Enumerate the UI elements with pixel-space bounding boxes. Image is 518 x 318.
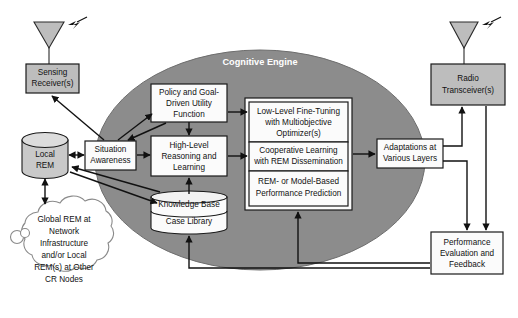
performance-prediction-node[interactable]: REM- or Model-Based Performance Predicti… <box>249 171 348 206</box>
radio-transceiver-node[interactable]: Radio Transceiver(s) <box>431 64 505 105</box>
sensing-receiver-node[interactable]: Sensing Receiver(s) <box>26 64 79 93</box>
low-level-tuning-node[interactable]: Low-Level Fine-Tuning with Multiobjectiv… <box>249 102 348 142</box>
high-level-reasoning-label-line3: Learning <box>173 163 205 172</box>
performance-evaluation-label-line2: Evaluation and <box>440 249 495 258</box>
global-rem-label-line5: REM(s) at Other <box>34 263 94 272</box>
cognitive-processing-stack: Low-Level Fine-Tuning with Multiobjectiv… <box>245 98 352 210</box>
performance-evaluation-label-line1: Performance <box>444 238 491 247</box>
knowledge-base-node[interactable]: Knowledge Base Case Library <box>151 191 227 234</box>
diagram-canvas: Cognitive Engine Sensing Receiver(s) Loc… <box>0 0 518 318</box>
global-rem-label-line2: Network <box>49 227 80 236</box>
policy-utility-node[interactable]: Policy and Goal- Driven Utility Function <box>151 84 227 122</box>
local-rem-node[interactable]: Local REM <box>22 133 68 179</box>
policy-utility-label-line3: Function <box>173 110 205 119</box>
situation-awareness-label-line2: Awareness <box>90 156 130 165</box>
cognitive-engine-title: Cognitive Engine <box>222 57 297 67</box>
high-level-reasoning-label-line1: High-Level <box>169 141 208 150</box>
policy-utility-label-line2: Driven Utility <box>166 99 213 108</box>
global-rem-label-line1: Global REM at <box>37 215 91 224</box>
cognitive-radio-architecture-diagram: Cognitive Engine Sensing Receiver(s) Loc… <box>0 0 518 318</box>
radio-transceiver-label-line2: Transceiver(s) <box>442 86 494 95</box>
situation-awareness-label-line1: Situation <box>95 145 127 154</box>
cooperative-learning-node[interactable]: Cooperative Learning with REM Disseminat… <box>249 142 348 171</box>
performance-evaluation-label-line3: Feedback <box>449 260 486 269</box>
left-rf-signal-icon <box>68 17 87 29</box>
sensing-receiver-label-line2: Receiver(s) <box>32 79 74 88</box>
low-level-tuning-label-line1: Low-Level Fine-Tuning <box>257 107 340 116</box>
local-rem-label-line2: REM <box>36 161 54 170</box>
left-antenna-icon <box>34 22 64 64</box>
right-antenna-icon <box>450 22 478 64</box>
policy-utility-label-line1: Policy and Goal- <box>159 88 219 97</box>
right-rf-signal-icon <box>482 17 501 29</box>
knowledge-base-label: Knowledge Base <box>158 200 220 209</box>
sensing-receiver-label-line1: Sensing <box>38 68 68 77</box>
edge-situation-to-sensing <box>52 96 104 140</box>
edge-adaptations-to-radio <box>443 107 462 146</box>
global-rem-cloud-node[interactable]: Global REM at Network Infrastructure and… <box>11 196 114 284</box>
radio-transceiver-label-line1: Radio <box>457 74 479 83</box>
high-level-reasoning-label-line2: Reasoning and <box>161 152 217 161</box>
adaptations-node[interactable]: Adaptations at Various Layers <box>377 139 443 168</box>
edge-adaptations-to-performance <box>443 161 467 230</box>
local-rem-label-line1: Local <box>35 150 55 159</box>
cooperative-learning-label-line2: with REM Dissemination <box>253 157 343 166</box>
low-level-tuning-label-line2: with Multiobjective <box>264 118 332 127</box>
performance-evaluation-node[interactable]: Performance Evaluation and Feedback <box>431 232 503 274</box>
case-library-label: Case Library <box>166 217 213 226</box>
low-level-tuning-label-line3: Optimizer(s) <box>276 129 321 138</box>
situation-awareness-node[interactable]: Situation Awareness <box>85 141 136 170</box>
global-rem-label-line3: Infrastructure <box>40 239 89 248</box>
performance-prediction-label-line1: REM- or Model-Based <box>258 177 339 186</box>
performance-prediction-label-line2: Performance Prediction <box>256 189 342 198</box>
adaptations-label-line1: Adaptations at <box>384 143 437 152</box>
high-level-reasoning-node[interactable]: High-Level Reasoning and Learning <box>151 136 227 176</box>
adaptations-label-line2: Various Layers <box>383 154 437 163</box>
global-rem-label-line4: and/or Local <box>41 251 86 260</box>
global-rem-label-line6: CR Nodes <box>45 275 83 284</box>
cooperative-learning-label-line1: Cooperative Learning <box>259 146 338 155</box>
